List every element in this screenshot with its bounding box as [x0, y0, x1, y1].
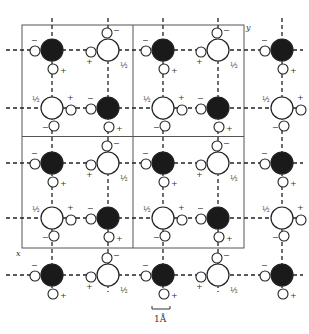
- hydrogen-atom: [48, 289, 58, 299]
- plus-sign: +: [60, 66, 67, 75]
- open-atom: [97, 264, 119, 286]
- open-atom: [152, 207, 174, 229]
- plus-sign: +: [116, 124, 123, 133]
- open-atom: [207, 264, 229, 286]
- minus-sign: −: [42, 123, 49, 132]
- dark-atom: [41, 39, 63, 61]
- minus-sign: −: [87, 204, 94, 213]
- dark-atom: [207, 207, 229, 229]
- plus-sign: +: [171, 66, 178, 75]
- lattice-diagram: −+−+½−+−+½−+½+−−+½+−−+½+−−+−+½−+−+½−+½+−…: [0, 0, 309, 334]
- hydrogen-atom: [196, 272, 206, 282]
- half-label: ½: [120, 61, 128, 70]
- hydrogen-atom: [86, 47, 96, 57]
- open-atom: [271, 207, 293, 229]
- half-label: ½: [262, 95, 270, 104]
- plus-sign: +: [178, 203, 185, 212]
- minus-sign: −: [142, 261, 149, 270]
- hydrogen-atom: [296, 215, 306, 225]
- hydrogen-atom: [102, 141, 112, 151]
- minus-sign: −: [197, 94, 204, 103]
- minus-sign: −: [272, 233, 279, 242]
- hydrogen-atom: [159, 289, 169, 299]
- minus-sign: −: [223, 251, 230, 260]
- hydrogen-atom: [177, 215, 187, 225]
- plus-sign: +: [178, 93, 185, 102]
- hydrogen-atom: [102, 253, 112, 263]
- minus-sign: −: [153, 233, 160, 242]
- hydrogen-atom: [212, 141, 222, 151]
- open-atom: [152, 97, 174, 119]
- dark-atom: [152, 39, 174, 61]
- hydrogen-atom: [296, 105, 306, 115]
- plus-sign: +: [171, 179, 178, 188]
- plus-sign: +: [226, 124, 233, 133]
- plus-sign: +: [297, 93, 304, 102]
- hydrogen-atom: [48, 64, 58, 74]
- hydrogen-atom: [278, 177, 288, 187]
- hydrogen-atom: [30, 46, 40, 56]
- open-atom: [271, 97, 293, 119]
- hydrogen-atom: [177, 105, 187, 115]
- hydrogen-atom: [214, 232, 224, 242]
- hydrogen-atom: [196, 214, 206, 224]
- open-atom: [41, 97, 63, 119]
- hydrogen-atom: [160, 231, 170, 241]
- plus-sign: +: [67, 93, 74, 102]
- minus-sign: −: [113, 26, 120, 35]
- plus-sign: +: [226, 234, 233, 243]
- hydrogen-atom: [49, 121, 59, 131]
- hydrogen-atom: [279, 231, 289, 241]
- hydrogen-atom: [66, 215, 76, 225]
- hydrogen-atom: [141, 159, 151, 169]
- minus-sign: −: [153, 123, 160, 132]
- plus-sign: +: [297, 203, 304, 212]
- hydrogen-atom: [260, 46, 270, 56]
- hydrogen-atom: [86, 104, 96, 114]
- open-atom: [41, 207, 63, 229]
- hydrogen-atom: [212, 28, 222, 38]
- minus-sign: −: [31, 261, 38, 270]
- x-axis-label: x: [16, 249, 21, 258]
- dark-atom: [207, 97, 229, 119]
- plus-sign: +: [171, 291, 178, 300]
- hydrogen-atom: [141, 271, 151, 281]
- plus-sign: +: [196, 57, 203, 66]
- minus-sign: −: [87, 94, 94, 103]
- hydrogen-atom: [86, 272, 96, 282]
- plus-sign: +: [196, 282, 203, 291]
- minus-sign: −: [142, 149, 149, 158]
- hydrogen-atom: [160, 121, 170, 131]
- dark-atom: [271, 264, 293, 286]
- hydrogen-atom: [104, 122, 114, 132]
- hydrogen-atom: [48, 177, 58, 187]
- half-label: ½: [120, 174, 128, 183]
- hydrogen-atom: [141, 46, 151, 56]
- dark-atom: [271, 152, 293, 174]
- open-atom: [97, 152, 119, 174]
- hydrogen-atom: [196, 104, 206, 114]
- hydrogen-atom: [159, 64, 169, 74]
- half-label: ½: [262, 205, 270, 214]
- minus-sign: −: [197, 204, 204, 213]
- dark-atom: [152, 152, 174, 174]
- hydrogen-atom: [278, 64, 288, 74]
- scale-bar-label: 1Å: [154, 313, 167, 324]
- y-axis-label: y: [245, 23, 251, 32]
- plus-sign: +: [86, 170, 93, 179]
- dark-atom: [152, 264, 174, 286]
- minus-sign: −: [31, 36, 38, 45]
- plus-sign: +: [86, 282, 93, 291]
- hydrogen-atom: [66, 105, 76, 115]
- hydrogen-atom: [86, 214, 96, 224]
- half-label: ½: [230, 174, 238, 183]
- plus-sign: +: [60, 291, 67, 300]
- minus-sign: −: [142, 36, 149, 45]
- minus-sign: −: [261, 36, 268, 45]
- dark-atom: [97, 207, 119, 229]
- half-label: ½: [230, 61, 238, 70]
- minus-sign: −: [261, 149, 268, 158]
- dark-atom: [41, 264, 63, 286]
- plus-sign: +: [290, 66, 297, 75]
- hydrogen-atom: [49, 231, 59, 241]
